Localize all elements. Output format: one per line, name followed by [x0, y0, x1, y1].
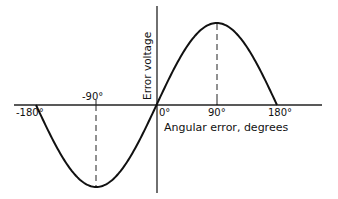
tick-label-180: 180° — [268, 107, 292, 118]
tick-label-neg180: -180° — [16, 107, 44, 118]
tick-label-90: 90° — [208, 107, 226, 118]
tick-label-neg90: -90° — [82, 91, 103, 102]
x-axis-label: Angular error, degrees — [164, 121, 288, 134]
tick-label-0: 0° — [159, 107, 170, 118]
y-axis-label: Error voltage — [141, 32, 153, 100]
error-voltage-diagram: Error voltage Angular error, degrees -18… — [0, 0, 338, 199]
